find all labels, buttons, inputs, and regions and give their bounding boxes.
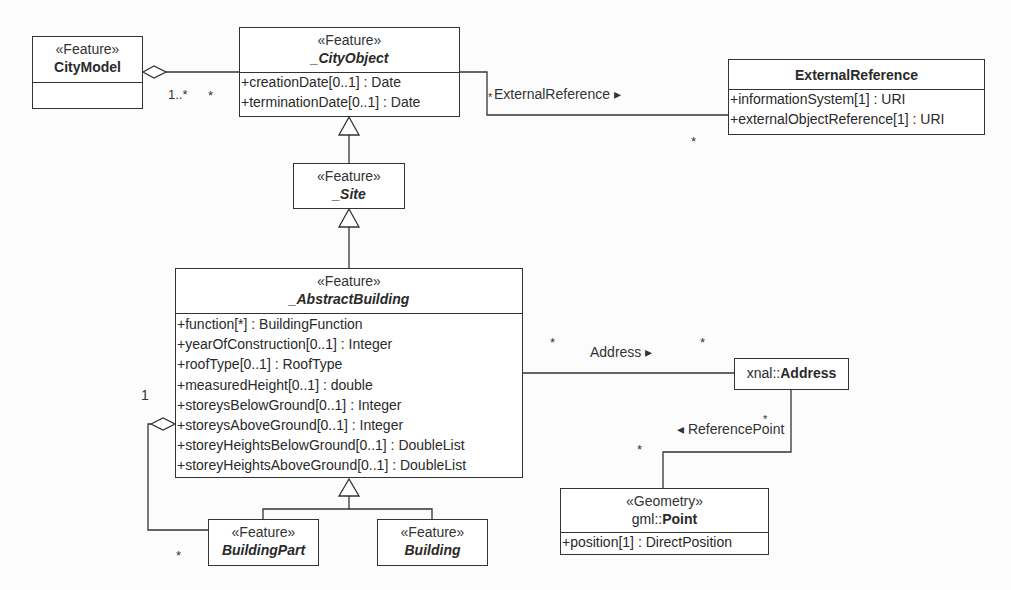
- attribute: +storeysBelowGround[0..1] : Integer: [177, 395, 522, 415]
- generalization-triangle-icon: [339, 209, 359, 227]
- generalization-triangle-icon: [339, 117, 359, 135]
- class-name: _AbstractBuilding: [176, 290, 522, 308]
- multiplicity-label: *: [176, 549, 181, 563]
- attribute: +storeyHeightsBelowGround[0..1] : Double…: [177, 435, 522, 455]
- class-name: ExternalReference: [729, 66, 984, 84]
- association-label: Address ▸: [590, 344, 652, 360]
- multiplicity-label: *: [637, 443, 642, 457]
- class-building[interactable]: «Feature» Building: [377, 519, 488, 566]
- namespace-prefix: xnal::: [747, 365, 780, 381]
- stereotype-label: «Feature»: [209, 523, 318, 541]
- class-city-object[interactable]: «Feature» _CityObject +creationDate[0..1…: [239, 27, 460, 117]
- stereotype-label: «Geometry»: [561, 492, 768, 510]
- class-name: BuildingPart: [209, 541, 318, 559]
- class-name: Point: [662, 511, 697, 527]
- attribute-list: +creationDate[0..1] : Date +terminationD…: [240, 73, 459, 112]
- association-label: ◂ ReferencePoint: [677, 421, 784, 437]
- class-name: CityModel: [33, 58, 142, 76]
- attribute: +storeysAboveGround[0..1] : Integer: [177, 415, 522, 435]
- generalization-triangle-icon: [339, 479, 359, 496]
- attribute-list: +position[1] : DirectPosition: [561, 533, 768, 553]
- attribute-list: +informationSystem[1] : URI +externalObj…: [729, 90, 984, 129]
- class-site[interactable]: «Feature» _Site: [293, 163, 405, 209]
- attribute: +terminationDate[0..1] : Date: [241, 93, 459, 113]
- multiplicity-label: *: [700, 336, 705, 350]
- attribute: +externalObjectReference[1] : URI: [730, 110, 984, 130]
- multiplicity-label: *: [208, 89, 213, 103]
- stereotype-label: «Feature»: [240, 31, 459, 49]
- namespace-prefix: gml::: [632, 511, 662, 527]
- attribute-list: +function[*] : BuildingFunction +yearOfC…: [176, 314, 522, 476]
- class-name: _Site: [294, 185, 404, 203]
- association-label: ExternalReference ▸: [494, 86, 621, 102]
- multiplicity-label: *: [550, 336, 555, 350]
- attribute: +creationDate[0..1] : Date: [241, 73, 459, 93]
- class-point[interactable]: «Geometry» gml::Point +position[1] : Dir…: [560, 488, 769, 555]
- multiplicity-label: 1: [141, 388, 149, 402]
- attribute: +yearOfConstruction[0..1] : Integer: [177, 334, 522, 354]
- attribute: +position[1] : DirectPosition: [562, 533, 768, 553]
- class-external-reference[interactable]: ExternalReference +informationSystem[1] …: [728, 59, 985, 135]
- class-address[interactable]: xnal::Address: [734, 358, 849, 390]
- multiplicity-label: *: [488, 90, 492, 104]
- attribute: +measuredHeight[0..1] : double: [177, 375, 522, 395]
- class-abstract-building[interactable]: «Feature» _AbstractBuilding +function[*]…: [175, 268, 523, 478]
- multiplicity-label: 1..*: [168, 88, 188, 102]
- aggregation-diamond-icon: [151, 418, 175, 430]
- attribute: +storeyHeightsAboveGround[0..1] : Double…: [177, 455, 522, 475]
- class-name: _CityObject: [240, 49, 459, 67]
- attribute: +roofType[0..1] : RoofType: [177, 354, 522, 374]
- stereotype-label: «Feature»: [294, 167, 404, 185]
- multiplicity-label: *: [763, 412, 767, 426]
- class-name: Building: [378, 541, 487, 559]
- attribute: +informationSystem[1] : URI: [730, 90, 984, 110]
- class-city-model[interactable]: «Feature» CityModel: [32, 36, 143, 109]
- class-name: Address: [780, 365, 836, 381]
- attribute: +function[*] : BuildingFunction: [177, 314, 522, 334]
- multiplicity-label: *: [691, 135, 696, 149]
- stereotype-label: «Feature»: [33, 40, 142, 58]
- aggregation-diamond-icon: [143, 66, 166, 78]
- stereotype-label: «Feature»: [176, 272, 522, 290]
- stereotype-label: «Feature»: [378, 523, 487, 541]
- class-building-part[interactable]: «Feature» BuildingPart: [208, 519, 319, 566]
